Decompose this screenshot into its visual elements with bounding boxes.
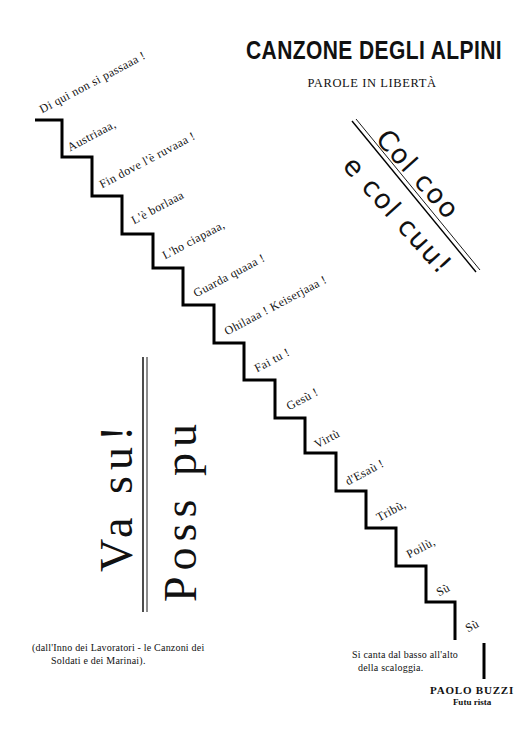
instruction-line-2: della scaloggia. [358, 661, 423, 674]
author-name: PAOLO BUZZI [422, 684, 522, 696]
instruction-line-1: Si canta dal basso all'alto [352, 648, 458, 661]
source-note-line-1: (dall'Inno dei Lavoratori - le Canzoni d… [32, 641, 204, 654]
vertical-text-left: Va su! [90, 420, 143, 572]
vertical-text-right: Poss pu [154, 418, 207, 602]
source-note-line-2: Soldati e dei Marinai). [51, 654, 146, 667]
author-movement: Futu rista [422, 697, 522, 707]
